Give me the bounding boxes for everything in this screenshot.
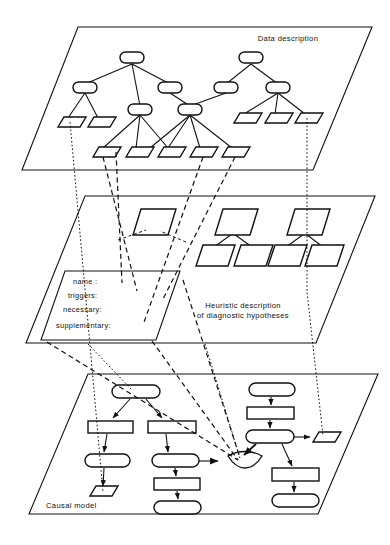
layer-label-heuristic-line2: of diagnostic hypotheses [197, 311, 289, 320]
layer-label-data-description: Data description [258, 34, 318, 43]
plane-causal-model [29, 374, 378, 514]
causal-c-stadium2 [246, 430, 294, 443]
top-node-b2 [266, 82, 290, 93]
top-leaf-3 [234, 113, 262, 123]
causal-c-rect1 [247, 407, 294, 419]
causal-a-rect [88, 421, 133, 433]
mid-node-c4 [305, 245, 344, 266]
top-leaf-10 [222, 147, 250, 157]
mid-node-c1 [196, 245, 235, 266]
top-node-a2 [158, 82, 182, 93]
causal-c-stadium3 [272, 494, 319, 507]
causal-c-output [313, 432, 341, 442]
frame-slot-name: name : [73, 277, 97, 286]
top-node-a4 [178, 104, 202, 115]
causal-c-stadium1 [249, 383, 295, 396]
top-leaf-6 [93, 147, 121, 157]
top-leaf-2 [88, 117, 116, 127]
mid-node-c2 [234, 245, 273, 266]
causal-c-rect2 [272, 468, 319, 481]
top-leaf-nodes [58, 113, 323, 157]
top-leaf-9 [190, 147, 218, 157]
layer-label-heuristic-line1: Heuristic description [205, 301, 281, 310]
causal-b-stadium2 [154, 501, 201, 514]
top-leaf-1 [58, 117, 86, 127]
frame-slot-triggers: triggers: [68, 291, 97, 300]
top-leaf-8 [158, 147, 186, 157]
causal-a-stadium [85, 454, 130, 467]
dashed-link-mid-to-gate-1 [152, 341, 238, 460]
causal-b-rect1 [148, 421, 196, 433]
mid-node-p1 [133, 209, 176, 235]
top-leaf-4 [265, 113, 293, 123]
top-node-a1 [73, 82, 97, 93]
layer-data-description: Data description [22, 27, 372, 170]
causal-column-b [146, 399, 218, 514]
mid-node-c3 [268, 245, 307, 266]
top-node-root-b [239, 52, 263, 63]
layer-label-causal-model: Causal model [46, 501, 97, 510]
frame-slot-supplementary: supplementary: [56, 321, 111, 330]
mid-node-p3 [287, 209, 330, 235]
dotted-link-frame-to-causal-root [88, 344, 132, 390]
dashed-link-leaf7-to-frame [116, 152, 122, 283]
dotted-link-mid-to-gate-2 [205, 344, 240, 458]
top-leaf-5 [295, 113, 323, 123]
mid-node-p2 [215, 209, 258, 235]
causal-column-c [244, 383, 341, 507]
top-leaf-7 [126, 147, 154, 157]
causal-a-output [90, 486, 118, 496]
top-node-root-a [120, 52, 144, 63]
top-node-a3 [128, 104, 152, 115]
top-node-b1 [214, 82, 238, 93]
frame-slot-necessary: necessary: [63, 305, 102, 314]
causal-b-rect2 [154, 478, 200, 490]
causal-b-stadium1 [152, 454, 199, 467]
three-layer-architecture-diagram: Data description [0, 0, 390, 545]
layer-causal-model: Causal model [29, 374, 378, 514]
